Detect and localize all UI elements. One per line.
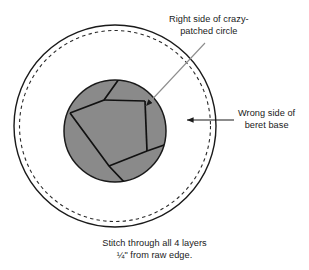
crazy-patched-circle [64, 80, 166, 182]
diagram-caption-line1: Stitch through all 4 layers [0, 238, 309, 250]
patch-seam-2 [104, 100, 145, 101]
diagram-canvas: Right side of crazy- patched circle Wron… [0, 0, 309, 270]
diagram-caption: Stitch through all 4 layers ¼" from raw … [0, 238, 309, 261]
label-beret-base: Wrong side of beret base [238, 108, 295, 131]
label-crazy-patched-circle-line2: patched circle [169, 26, 249, 38]
label-crazy-patched-circle: Right side of crazy- patched circle [169, 14, 249, 37]
label-beret-base-line1: Wrong side of [238, 108, 295, 120]
diagram-graphics [0, 0, 309, 270]
diagram-caption-line2: ¼" from raw edge. [0, 250, 309, 262]
label-crazy-patched-circle-line1: Right side of crazy- [169, 14, 249, 26]
label-beret-base-line2: beret base [238, 120, 295, 132]
